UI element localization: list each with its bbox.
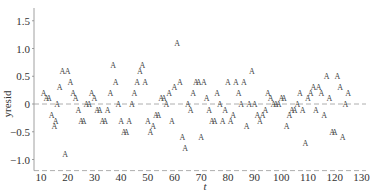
data-point: A [92, 94, 98, 103]
data-point: A [249, 67, 255, 76]
y-tick-label: −1.0 [10, 154, 30, 166]
data-point: A [198, 133, 204, 142]
data-point: A [238, 100, 244, 109]
data-point: A [81, 117, 87, 126]
y-tick-label: 0 [25, 98, 31, 110]
data-point: A [204, 94, 210, 103]
data-point: A [169, 117, 175, 126]
data-point: A [140, 61, 146, 70]
data-points: AAAAAAAAAAAAAAAAAAAAAAAAAAAAAAAAAAAAAAAA… [41, 39, 351, 159]
scatter-chart: −1.0−0.500.51.01.5 102030405060708090100… [0, 0, 370, 194]
data-point: A [340, 133, 346, 142]
data-point: A [110, 61, 116, 70]
data-point: A [118, 117, 124, 126]
data-point: A [201, 78, 207, 87]
data-point: A [321, 111, 327, 120]
x-tick-label: 60 [169, 171, 181, 183]
data-point: A [126, 117, 132, 126]
x-tick-label: 110 [300, 171, 317, 183]
data-point: A [206, 106, 212, 115]
data-point: A [337, 83, 343, 92]
data-point: A [182, 144, 188, 153]
data-point: A [324, 72, 330, 81]
data-point: A [142, 78, 148, 87]
data-point: A [212, 117, 218, 126]
data-point: A [252, 100, 258, 109]
data-point: A [190, 89, 196, 98]
data-point: A [214, 89, 220, 98]
data-point: A [164, 100, 170, 109]
data-point: A [300, 106, 306, 115]
data-point: A [67, 78, 73, 87]
data-point: A [75, 106, 81, 115]
x-tick-label: 30 [89, 171, 101, 183]
data-point: A [156, 111, 162, 120]
data-point: A [108, 89, 114, 98]
x-tick-label: 20 [62, 171, 74, 183]
x-tick-label: 90 [249, 171, 261, 183]
y-tick-label: 0.5 [16, 70, 30, 82]
x-tick-label: 120 [326, 171, 343, 183]
x-axis-title: t [203, 180, 207, 192]
data-point: A [113, 78, 119, 87]
data-point: A [116, 100, 122, 109]
data-point: A [302, 139, 308, 148]
data-point: A [222, 106, 228, 115]
data-point: A [236, 89, 242, 98]
data-point: A [345, 89, 351, 98]
data-point: A [284, 122, 290, 131]
data-point: A [97, 106, 103, 115]
data-point: A [225, 78, 231, 87]
data-point: A [174, 39, 180, 48]
data-point: A [241, 78, 247, 87]
y-axis-title: yresid [1, 90, 13, 117]
data-point: A [53, 117, 59, 126]
x-tick-label: 80 [222, 171, 234, 183]
data-point: A [244, 122, 250, 131]
data-point: A [102, 117, 108, 126]
data-point: A [342, 100, 348, 109]
data-point: A [132, 89, 138, 98]
y-axis: −1.0−0.500.51.01.5 [10, 8, 34, 171]
data-point: A [262, 106, 268, 115]
x-tick-label: 100 [273, 171, 290, 183]
data-point: A [313, 106, 319, 115]
data-point: A [230, 111, 236, 120]
data-point: A [220, 117, 226, 126]
x-tick-label: 40 [116, 171, 128, 183]
data-point: A [57, 83, 63, 92]
data-point: A [318, 89, 324, 98]
data-point: A [46, 94, 52, 103]
y-tick-label: −0.5 [10, 126, 30, 138]
data-point: A [332, 128, 338, 137]
data-point: A [73, 94, 79, 103]
data-point: A [326, 94, 332, 103]
data-point: A [150, 122, 156, 131]
data-point: A [54, 100, 60, 109]
x-tick-label: 50 [142, 171, 154, 183]
data-point: A [177, 78, 183, 87]
data-point: A [129, 100, 135, 109]
x-tick-label: 10 [36, 171, 48, 183]
data-point: A [62, 150, 68, 159]
data-point: A [105, 106, 111, 115]
data-point: A [188, 106, 194, 115]
data-point: A [65, 67, 71, 76]
x-tick-label: 130 [353, 171, 370, 183]
data-point: A [124, 128, 130, 137]
y-tick-label: 1.0 [16, 43, 30, 55]
data-point: A [334, 72, 340, 81]
data-point: A [281, 94, 287, 103]
data-point: A [180, 133, 186, 142]
data-point: A [297, 89, 303, 98]
data-point: A [134, 78, 140, 87]
data-point: A [233, 78, 239, 87]
y-tick-label: 1.5 [16, 15, 30, 27]
